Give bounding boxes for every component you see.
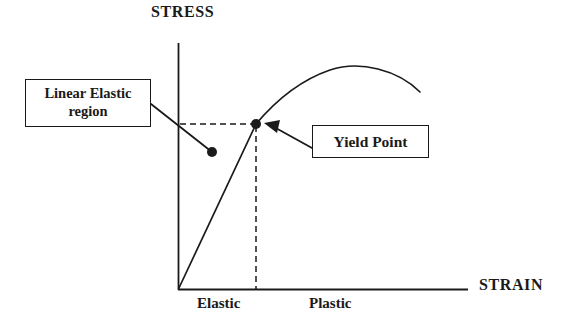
elastic-linear-segment	[179, 124, 257, 289]
stress-axis-title: STRESS	[151, 3, 214, 21]
yield-point-callout: Yield Point	[312, 125, 429, 158]
linear-elastic-region-callout: Linear Elastic region	[25, 79, 151, 127]
yield-point-dot	[251, 119, 261, 129]
stress-strain-diagram: STRESS STRAIN Elastic Plastic Linear Ela…	[0, 0, 564, 331]
linear-elastic-callout-line1: Linear Elastic	[40, 85, 135, 103]
strain-axis-title: STRAIN	[479, 276, 543, 294]
plastic-curve-segment	[256, 66, 420, 124]
linear-elastic-leader-dot	[207, 147, 217, 157]
linear-elastic-callout-line2: region	[40, 103, 135, 121]
elastic-region-label: Elastic	[197, 295, 240, 312]
yield-point-arrowhead	[264, 120, 280, 133]
plastic-region-label: Plastic	[309, 295, 352, 312]
yield-point-leader-line	[274, 127, 312, 148]
yield-point-callout-label: Yield Point	[330, 133, 412, 151]
linear-elastic-leader-line	[151, 104, 212, 152]
